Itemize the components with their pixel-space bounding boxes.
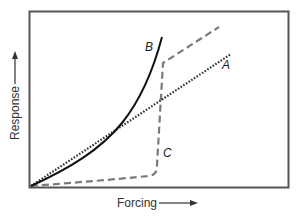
arrow-right-icon [190, 200, 198, 206]
response-vs-forcing-diagram: B A C Response Forcing [0, 0, 301, 216]
x-axis-title: Forcing [117, 196, 198, 210]
y-axis-label: Response [8, 86, 22, 140]
label-c: C [163, 146, 172, 160]
x-axis-label: Forcing [117, 196, 157, 210]
label-b: B [145, 40, 153, 54]
label-a: A [221, 58, 230, 72]
y-axis-title: Response [8, 51, 22, 140]
arrow-up-icon [12, 51, 18, 59]
